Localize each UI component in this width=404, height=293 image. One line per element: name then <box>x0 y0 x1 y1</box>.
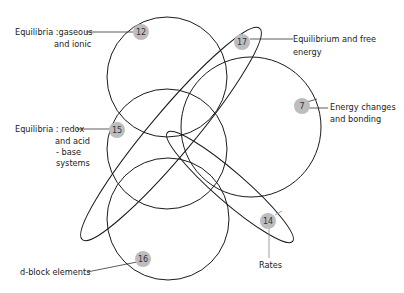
label-15-line-4: systems <box>56 158 90 168</box>
badge-number-15: 15 <box>112 126 122 135</box>
circle-7 <box>181 57 321 197</box>
label-7-line-1: Energy changes <box>330 102 396 112</box>
badge-number-14: 14 <box>263 217 273 226</box>
label-16: d-block elements <box>20 267 91 277</box>
label-17-line-1: Equilibrium and free <box>293 34 376 44</box>
label-14: Rates <box>259 260 282 270</box>
label-17-line-2: energy <box>293 47 322 57</box>
label-7-line-2: and bonding <box>330 114 381 124</box>
circle-16 <box>107 158 229 280</box>
badge-number-17: 17 <box>237 38 247 47</box>
label-15-line-3: - base <box>56 147 81 157</box>
label-12-line-2: and ionic <box>54 39 91 49</box>
diagram-canvas: 12 17 7 15 14 16 Equilibria :gaseous and… <box>0 0 404 293</box>
label-12-line-1: Equilibria :gaseous <box>15 27 93 37</box>
ellipse-14 <box>158 121 303 253</box>
badge-number-12: 12 <box>136 28 146 37</box>
badge-number-7: 7 <box>299 102 304 111</box>
badge-number-16: 16 <box>138 255 148 264</box>
leader-line-16 <box>87 262 137 272</box>
circle-12 <box>107 17 227 137</box>
label-15-line-2: and acid <box>55 136 90 146</box>
label-15-line-1: Equilibria : redox <box>15 124 84 134</box>
circle-15 <box>107 89 227 209</box>
set-diagram: 12 17 7 15 14 16 Equilibria :gaseous and… <box>0 0 404 293</box>
